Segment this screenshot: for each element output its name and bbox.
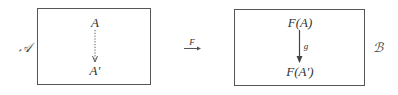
dotted-arrow-icon [93,30,98,62]
arrows-layer [0,0,398,95]
functor-arrow-icon [184,47,201,51]
morphism-arrow-icon [297,30,303,63]
